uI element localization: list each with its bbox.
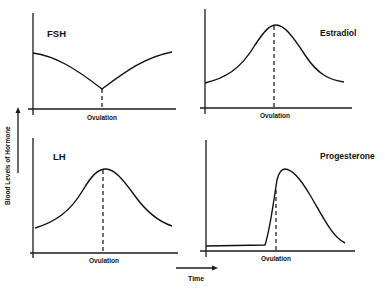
shared-y-label: Blood Levels of Hormone xyxy=(4,107,21,205)
x-label: Ovulation xyxy=(260,112,290,119)
arrow-head-icon xyxy=(16,107,21,113)
panel-lh: LH Ovulation xyxy=(30,138,178,264)
panel-title: Estradiol xyxy=(320,28,356,38)
fsh-curve xyxy=(33,52,172,89)
time-label: Time xyxy=(188,275,204,282)
panel-fsh: FSH Ovulation xyxy=(28,13,176,121)
arrow-head-icon xyxy=(212,266,218,271)
x-label: Ovulation xyxy=(261,255,291,262)
panel-progesterone: Progesterone Ovulation xyxy=(200,140,375,262)
x-label: Ovulation xyxy=(89,257,119,264)
x-label: Ovulation xyxy=(87,114,117,121)
shared-x-label: Time xyxy=(176,266,218,283)
panel-title: Progesterone xyxy=(320,151,375,161)
panel-estradiol: Estradiol Ovulation xyxy=(200,9,356,119)
y-axis-title: Blood Levels of Hormone xyxy=(4,126,11,205)
panel-title: LH xyxy=(53,151,66,162)
panel-title: FSH xyxy=(47,28,66,39)
hormone-diagram: FSH Ovulation Estradiol Ovulation LH Ovu… xyxy=(0,0,385,296)
